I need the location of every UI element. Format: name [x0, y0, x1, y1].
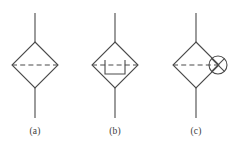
figure-root: (a) (b) (c) — [0, 0, 250, 148]
diamond-outline-b — [92, 42, 138, 88]
symbol-group-b — [92, 13, 138, 118]
symbol-group-c — [173, 13, 227, 118]
diamond-outline-a — [12, 42, 58, 88]
figure-svg — [0, 0, 250, 148]
symbol-group-a — [12, 13, 58, 118]
u-trap-icon — [105, 60, 125, 74]
